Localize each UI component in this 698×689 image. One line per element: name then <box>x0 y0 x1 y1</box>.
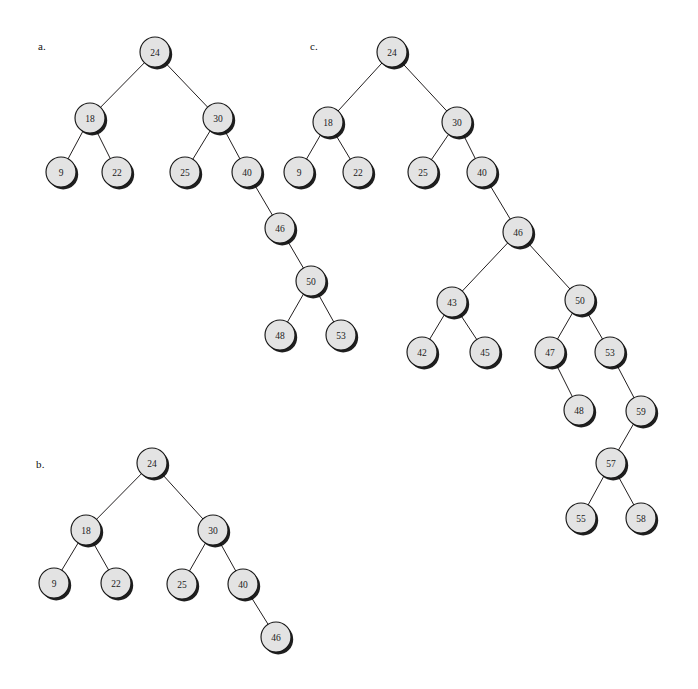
node-value-label: 18 <box>85 114 95 124</box>
node-value-label: 30 <box>213 114 223 124</box>
tree-node: 53 <box>326 320 358 352</box>
tree-node: 9 <box>39 568 71 600</box>
tree-node: 25 <box>408 157 440 189</box>
node-value-label: 57 <box>606 459 616 469</box>
node-value-label: 48 <box>574 406 584 416</box>
tree-edge <box>225 130 241 159</box>
tree-node: 46 <box>265 213 297 245</box>
tree-edge <box>96 473 142 520</box>
node-value-label: 9 <box>52 579 57 589</box>
tree-node: 48 <box>564 395 596 427</box>
node-value-label: 48 <box>275 331 285 341</box>
tree-edge <box>318 293 334 323</box>
node-value-label: 30 <box>452 118 462 128</box>
node-value-label: 22 <box>111 579 121 589</box>
tree-node: 57 <box>596 448 628 480</box>
tree-edge <box>287 240 304 269</box>
node-value-label: 59 <box>636 407 646 417</box>
tree-edge <box>587 312 603 340</box>
tree-node: 58 <box>626 503 658 535</box>
tree-edge <box>460 314 478 341</box>
tree-node: 30 <box>203 103 235 135</box>
tree-edge <box>335 134 351 160</box>
node-value-label: 58 <box>636 514 646 524</box>
tree-node: 40 <box>228 569 260 601</box>
tree-edge <box>189 542 206 572</box>
node-value-label: 40 <box>238 580 248 590</box>
tree-edge <box>557 312 573 340</box>
tree-node: 59 <box>626 396 658 428</box>
tree-node: 40 <box>232 157 264 189</box>
node-value-label: 40 <box>242 168 252 178</box>
tree-node: 53 <box>595 337 627 369</box>
tree-edge <box>463 135 475 160</box>
tree-node: 42 <box>407 337 439 369</box>
tree-edge <box>68 130 84 159</box>
tree-node: 22 <box>101 568 133 600</box>
tree-node: 48 <box>265 320 297 352</box>
panel-label-c: c. <box>310 40 318 52</box>
panel-label-a: a. <box>38 40 46 52</box>
node-value-label: 45 <box>480 348 490 358</box>
tree-edge <box>250 596 268 625</box>
tree-node: 47 <box>535 337 567 369</box>
tree-node: 22 <box>102 157 134 189</box>
tree-edge <box>489 184 511 220</box>
tree-edge <box>431 134 449 161</box>
tree-edge <box>527 242 570 289</box>
node-value-label: 24 <box>147 459 157 469</box>
node-value-label: 9 <box>297 168 302 178</box>
node-value-label: 53 <box>336 331 346 341</box>
tree-edge <box>254 184 273 216</box>
tree-edge <box>402 62 448 111</box>
tree-edge <box>588 475 605 505</box>
tree-node: 43 <box>437 287 469 319</box>
node-value-label: 53 <box>605 348 615 358</box>
node-value-label: 18 <box>323 118 333 128</box>
tree-edge <box>617 364 635 398</box>
tree-node: 30 <box>442 107 474 139</box>
nodes-layer: 2418309222540465048532418309222540462418… <box>39 37 658 654</box>
tree-node: 22 <box>343 157 375 189</box>
tree-node: 45 <box>470 337 502 369</box>
tree-node: 50 <box>296 266 328 298</box>
node-value-label: 40 <box>477 168 487 178</box>
tree-edge <box>100 62 145 108</box>
tree-edge <box>192 130 210 160</box>
tree-node: 18 <box>75 103 107 135</box>
tree-node: 46 <box>503 217 535 249</box>
tree-edge <box>61 542 79 571</box>
tree-edge <box>429 314 445 340</box>
node-value-label: 55 <box>576 514 586 524</box>
tree-node: 25 <box>167 569 199 601</box>
node-value-label: 25 <box>177 580 187 590</box>
panel-label-b: b. <box>36 458 45 470</box>
node-value-label: 18 <box>81 526 91 536</box>
tree-node: 55 <box>566 503 598 535</box>
tree-edge <box>96 131 110 160</box>
tree-node: 30 <box>198 515 230 547</box>
tree-edge <box>306 134 321 160</box>
tree-node: 50 <box>565 285 597 317</box>
tree-node: 46 <box>261 622 293 654</box>
tree-node: 24 <box>140 37 172 69</box>
node-value-label: 50 <box>575 296 585 306</box>
tree-node: 9 <box>46 157 78 189</box>
node-value-label: 25 <box>418 168 428 178</box>
figure-root: 2418309222540465048532418309222540462418… <box>0 0 698 689</box>
node-value-label: 30 <box>208 526 218 536</box>
tree-node: 24 <box>377 37 409 69</box>
tree-edge <box>337 62 382 111</box>
tree-edge <box>93 542 109 571</box>
tree-edge <box>462 242 509 292</box>
node-value-label: 9 <box>59 168 64 178</box>
tree-edge <box>287 293 304 323</box>
node-value-label: 22 <box>112 168 122 178</box>
node-value-label: 43 <box>447 298 457 308</box>
node-value-label: 47 <box>545 348 555 358</box>
tree-edge <box>220 542 236 572</box>
tree-edge <box>556 365 572 398</box>
tree-edge <box>165 62 209 108</box>
tree-edge <box>161 473 203 519</box>
node-value-label: 46 <box>271 633 281 643</box>
